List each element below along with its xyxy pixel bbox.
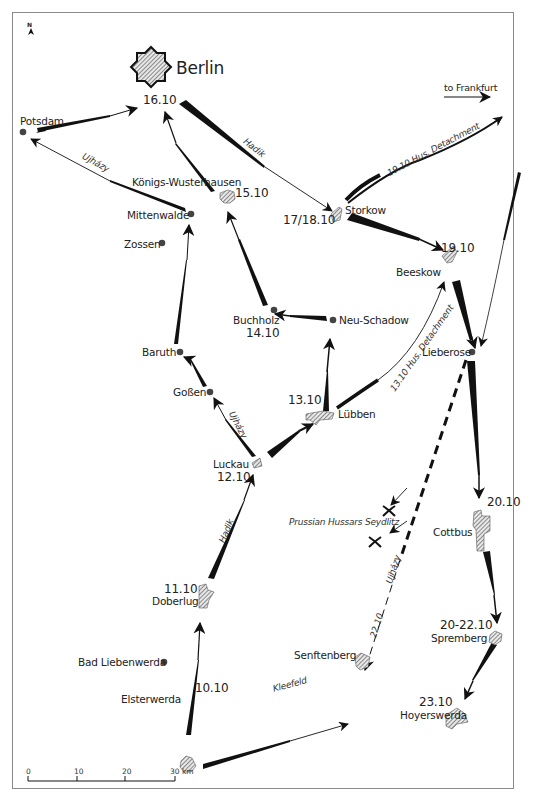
crossed-sabres-icon: [383, 506, 395, 516]
label-to-frankfurt: to Frankfurt: [444, 83, 497, 93]
label-lieberose: Lieberose: [422, 347, 471, 358]
date-beeskow: 19.10: [441, 242, 474, 254]
date-buchholz: 14.10: [246, 327, 279, 339]
label-beeskow: Beeskow: [396, 267, 441, 278]
label-berlin: Berlin: [176, 60, 224, 77]
date-storkow: 17/18.10: [283, 214, 335, 226]
label-konigs-wusterhausen: Königs-Wusterhausen: [132, 177, 241, 188]
label-neu-schadow: Neu-Schadow: [339, 315, 409, 326]
date-spremberg: 20-22.10: [440, 619, 492, 631]
label-baruth: Baruth: [142, 347, 176, 358]
place-dots: [20, 129, 476, 666]
label-prussian-hussars: Prussian Hussars Seydlitz: [289, 518, 399, 527]
town-luckau-icon: [252, 458, 262, 468]
town-cottbus-icon: [473, 510, 490, 551]
label-potsdam: Potsdam: [20, 116, 64, 127]
date-berlin: 16.10: [143, 94, 176, 106]
label-cottbus: Cottbus: [433, 527, 472, 538]
north-arrow-icon: [28, 28, 34, 35]
scale-tick-20: 20: [122, 767, 132, 776]
town-konigs-wusterhausen-icon: [220, 190, 235, 203]
label-spremberg: Spremberg: [431, 633, 487, 644]
label-storkow: Storkow: [345, 205, 386, 216]
label-luckau: Luckau: [213, 459, 249, 470]
label-bad-liebenwerda: Bad Liebenwerda: [78, 657, 166, 668]
date-konigs-wusterhausen: 15.10: [235, 187, 268, 199]
date-lubben: 13.10: [288, 394, 321, 406]
label-doberlug: Doberlug: [152, 596, 199, 607]
compass-north-label: N: [27, 22, 32, 28]
town-doberlug-icon: [199, 584, 214, 608]
scale-bar: [28, 776, 175, 781]
scale-tick-10: 10: [74, 767, 84, 776]
berlin-fortress-icon: [131, 47, 171, 87]
label-elsterwerda: Elsterwerda: [121, 694, 181, 705]
label-hoyerswerda: Hoyerswerda: [400, 710, 467, 721]
date-luckau: 12.10: [217, 471, 250, 483]
label-gossen: Goßen: [173, 387, 206, 398]
scale-tick-0: 0: [26, 767, 31, 776]
date-doberlug: 11.10: [164, 583, 197, 595]
date-hoyerswerda: 23.10: [419, 696, 452, 708]
town-lubben-icon: [306, 411, 334, 425]
town-spremberg-icon: [489, 631, 502, 645]
label-zossen: Zossen: [124, 239, 160, 250]
map-graphics: [0, 0, 543, 809]
campaign-map: N Berlin 16.10 Potsdam Königs-Wusterhaus…: [0, 0, 543, 809]
scale-tick-30: 30 km: [170, 767, 194, 776]
date-cottbus: 20.10: [487, 496, 520, 508]
label-senftenberg: Senftenberg: [294, 650, 356, 661]
label-mittenwalde: Mittenwalde: [127, 210, 189, 221]
crossed-sabres-icon: [369, 537, 381, 547]
label-lubben: Lübben: [338, 409, 376, 420]
date-elsterwerda: 10.10: [195, 682, 228, 694]
label-buchholz: Buchholz: [233, 315, 279, 326]
town-senftenberg-icon: [355, 653, 370, 670]
